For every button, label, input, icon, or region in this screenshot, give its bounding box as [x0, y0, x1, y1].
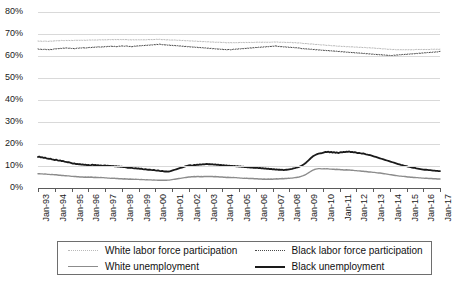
x-tick	[407, 188, 408, 192]
x-tick-label: Jan-94	[59, 194, 68, 222]
legend-label: Black unemployment	[292, 261, 385, 272]
legend-label: White unemployment	[105, 261, 199, 272]
x-tick	[306, 188, 307, 192]
y-tick-label: 0%	[0, 183, 23, 192]
x-tick	[440, 188, 441, 192]
x-tick-label: Jan-09	[310, 194, 319, 222]
gridline	[38, 144, 440, 145]
gridline	[38, 34, 440, 35]
x-tick	[256, 188, 257, 192]
x-tick-label: Jan-04	[226, 194, 235, 222]
x-tick-label: Jan-01	[176, 194, 185, 222]
legend-entry[interactable]: Black labor force participation	[245, 245, 432, 256]
x-tick-label: Jan-98	[126, 194, 135, 222]
series-line	[38, 39, 440, 50]
x-tick-label: Jan-13	[377, 194, 386, 222]
x-tick	[222, 188, 223, 192]
x-tick	[206, 188, 207, 192]
chart-legend: White labor force participationBlack lab…	[57, 241, 432, 275]
x-tick-label: Jan-99	[143, 194, 152, 222]
x-tick	[88, 188, 89, 192]
x-tick	[273, 188, 274, 192]
x-tick-label: Jan-16	[427, 194, 436, 222]
series-line	[38, 151, 440, 171]
legend-swatch	[255, 262, 285, 270]
x-tick	[139, 188, 140, 192]
x-tick-label: Jan-08	[293, 194, 302, 222]
x-tick	[72, 188, 73, 192]
gridline	[38, 166, 440, 167]
y-tick-label: 20%	[0, 139, 23, 148]
x-tick	[155, 188, 156, 192]
x-tick	[239, 188, 240, 192]
y-tick-label: 10%	[0, 161, 23, 170]
y-tick-label: 80%	[0, 7, 23, 16]
x-tick-label: Jan-93	[42, 194, 51, 222]
x-tick-label: Jan-00	[159, 194, 168, 222]
legend-swatch	[68, 262, 98, 270]
legend-swatch	[68, 246, 98, 254]
x-tick-label: Jan-15	[411, 194, 420, 222]
x-tick	[289, 188, 290, 192]
y-tick-label: 70%	[0, 29, 23, 38]
gridline	[38, 12, 440, 13]
x-tick-label: Jan-07	[277, 194, 286, 222]
x-tick	[390, 188, 391, 192]
x-tick-label: Jan-17	[444, 194, 453, 222]
x-tick	[323, 188, 324, 192]
x-tick	[373, 188, 374, 192]
x-tick-label: Jan-10	[327, 194, 336, 222]
x-tick	[122, 188, 123, 192]
legend-swatch	[255, 246, 285, 254]
x-tick	[105, 188, 106, 192]
series-line	[38, 44, 440, 56]
y-tick-label: 30%	[0, 117, 23, 126]
gridline	[38, 122, 440, 123]
y-tick-label: 50%	[0, 73, 23, 82]
x-tick-label: Jan-03	[210, 194, 219, 222]
legend-entry[interactable]: White unemployment	[58, 261, 245, 272]
y-tick-label: 60%	[0, 51, 23, 60]
x-tick-label: Jan-14	[394, 194, 403, 222]
line-chart: 0%10%20%30%40%50%60%70%80% Jan-93Jan-94J…	[0, 0, 466, 288]
x-tick-label: Jan-96	[92, 194, 101, 222]
x-tick	[38, 188, 39, 192]
x-tick	[423, 188, 424, 192]
x-tick	[55, 188, 56, 192]
gridline	[38, 56, 440, 57]
x-tick-label: Jan-97	[109, 194, 118, 222]
legend-label: White labor force participation	[105, 245, 237, 256]
x-tick	[189, 188, 190, 192]
plot-area	[38, 12, 440, 188]
gridline	[38, 100, 440, 101]
legend-entry[interactable]: Black unemployment	[245, 261, 432, 272]
legend-entry[interactable]: White labor force participation	[58, 245, 245, 256]
x-tick-label: Jan-12	[360, 194, 369, 222]
y-tick-label: 40%	[0, 95, 23, 104]
x-tick-label: Jan-02	[193, 194, 202, 222]
series-line	[38, 169, 440, 181]
x-tick-label: Jan-95	[76, 194, 85, 222]
x-tick	[356, 188, 357, 192]
legend-label: Black labor force participation	[292, 245, 423, 256]
x-tick	[172, 188, 173, 192]
x-tick-label: Jan-05	[243, 194, 252, 222]
x-tick	[340, 188, 341, 192]
x-tick-label: Jan-06	[260, 194, 269, 222]
x-tick-label: Jan-11	[344, 194, 353, 221]
gridline	[38, 78, 440, 79]
